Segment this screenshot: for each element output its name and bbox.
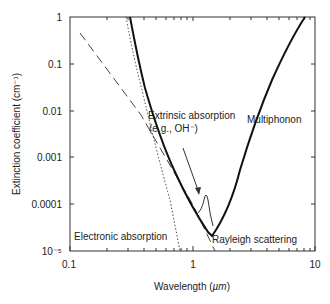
annotation-electronic: Electronic absorption [74, 231, 167, 242]
x-tick-0.1: 0.1 [62, 259, 76, 270]
annotation-extrinsic: Extrinsic absorption [148, 110, 235, 121]
annotation-extrinsic-example: (e.g., OH⁻) [149, 123, 198, 134]
y-tick-0.1: 0.1 [48, 59, 62, 70]
annotation-arrow [183, 148, 199, 193]
arrow-head-icon [195, 187, 201, 195]
oh-absorption-peak [196, 195, 213, 226]
annotation-multiphonon: Multiphonon [247, 114, 301, 125]
x-tick-1: 1 [190, 259, 196, 270]
rayleigh-curve [80, 33, 215, 251]
electronic-curve [126, 17, 180, 251]
x-axis-title: Wavelength (µm) [154, 281, 230, 292]
y-tick-0.0001: 0.0001 [31, 199, 62, 210]
plot-frame [70, 17, 315, 251]
y-axis-title: Extinction coefficient (cm⁻¹) [11, 73, 22, 195]
annotation-rayleigh: Rayleigh scattering [212, 234, 297, 245]
y-ticks [70, 64, 315, 204]
x-ticks [70, 17, 315, 251]
y-tick-1: 1 [56, 12, 62, 23]
y-tick-1e-5: 10⁻⁵ [42, 246, 62, 257]
x-tick-10: 10 [309, 259, 321, 270]
y-tick-0.001: 0.001 [37, 152, 62, 163]
extinction-chart: 1 0.1 0.01 0.001 0.0001 10⁻⁵ 0.1 1 10 Wa… [0, 0, 330, 304]
y-tick-0.01: 0.01 [43, 106, 63, 117]
